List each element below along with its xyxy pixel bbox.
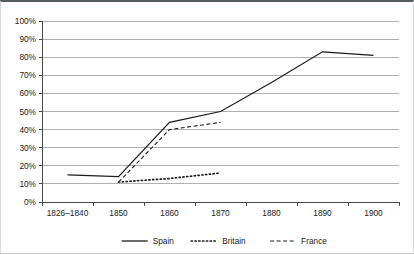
x-tick-label: 1900 xyxy=(364,208,383,218)
legend-label-britain: Britain xyxy=(222,236,246,246)
y-tick-label: 80% xyxy=(19,52,36,62)
x-tick-label: 1890 xyxy=(313,208,332,218)
x-tick-label: 1880 xyxy=(262,208,281,218)
x-axis-tick-labels: 1826–1840185018601870188018901900 xyxy=(47,208,383,218)
series-line-france xyxy=(119,122,221,182)
y-axis-tick-labels: 0%10%20%30%40%50%60%70%80%90%100% xyxy=(15,16,37,207)
y-tick-label: 0% xyxy=(24,197,37,207)
chart-legend: SpainBritainFrance xyxy=(122,236,328,246)
gridlines xyxy=(42,21,399,184)
x-tick-label: 1870 xyxy=(211,208,230,218)
y-tick-label: 90% xyxy=(19,34,36,44)
series-line-britain xyxy=(119,173,221,182)
y-tick-label: 100% xyxy=(15,16,37,26)
y-tick-label: 30% xyxy=(19,143,36,153)
data-series-group xyxy=(68,52,374,182)
y-tick-label: 20% xyxy=(19,161,36,171)
legend-label-spain: Spain xyxy=(153,236,175,246)
line-chart: 0%10%20%30%40%50%60%70%80%90%100% 1826–1… xyxy=(1,2,414,254)
legend-label-france: France xyxy=(301,236,327,246)
chart-figure: 0%10%20%30%40%50%60%70%80%90%100% 1826–1… xyxy=(0,0,414,254)
y-tick-label: 10% xyxy=(19,179,36,189)
series-line-spain xyxy=(68,52,374,177)
y-tick-label: 60% xyxy=(19,88,36,98)
y-tick-label: 40% xyxy=(19,125,36,135)
x-tick-label: 1850 xyxy=(109,208,128,218)
y-tick-label: 50% xyxy=(19,107,36,117)
x-tick-marks xyxy=(42,202,399,206)
x-tick-label: 1826–1840 xyxy=(47,208,89,218)
x-tick-label: 1860 xyxy=(160,208,179,218)
y-tick-label: 70% xyxy=(19,70,36,80)
